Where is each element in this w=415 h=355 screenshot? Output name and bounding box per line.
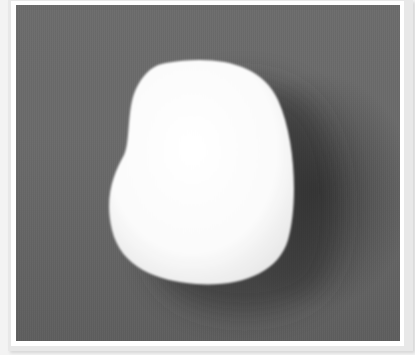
- page-background: [0, 0, 415, 355]
- photo: [16, 5, 400, 341]
- white-stone: [16, 5, 400, 341]
